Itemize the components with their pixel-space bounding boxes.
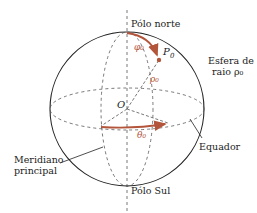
meridian-label-1: Meridiano xyxy=(14,154,64,165)
radius-theta xyxy=(127,109,168,123)
radius-prime xyxy=(101,109,127,126)
sphere-diagram: Pólo norte Pólo Sul Esfera de raio ρ₀ Eq… xyxy=(0,0,257,213)
rho-line xyxy=(127,60,159,109)
theta-label: θ₀ xyxy=(137,130,146,140)
north-pole-label: Pólo norte xyxy=(131,18,181,29)
sphere-label-1: Esfera de xyxy=(208,55,254,66)
equator-label: Equador xyxy=(199,141,241,152)
theta-arc xyxy=(101,124,165,128)
phi-label: φ₀ xyxy=(134,42,144,52)
p0-label: P xyxy=(162,46,170,57)
origin-label: O xyxy=(117,99,125,110)
south-pole-label: Pólo Sul xyxy=(131,185,170,196)
sphere-label-2: raio ρ₀ xyxy=(212,66,244,77)
meridian-label-2: principal xyxy=(14,165,57,176)
rho-label: ρ₀ xyxy=(149,74,159,84)
point-p0 xyxy=(157,58,161,62)
equator-leader xyxy=(190,119,202,138)
meridian-leader xyxy=(60,147,103,163)
p0-sub: 0 xyxy=(170,52,175,60)
